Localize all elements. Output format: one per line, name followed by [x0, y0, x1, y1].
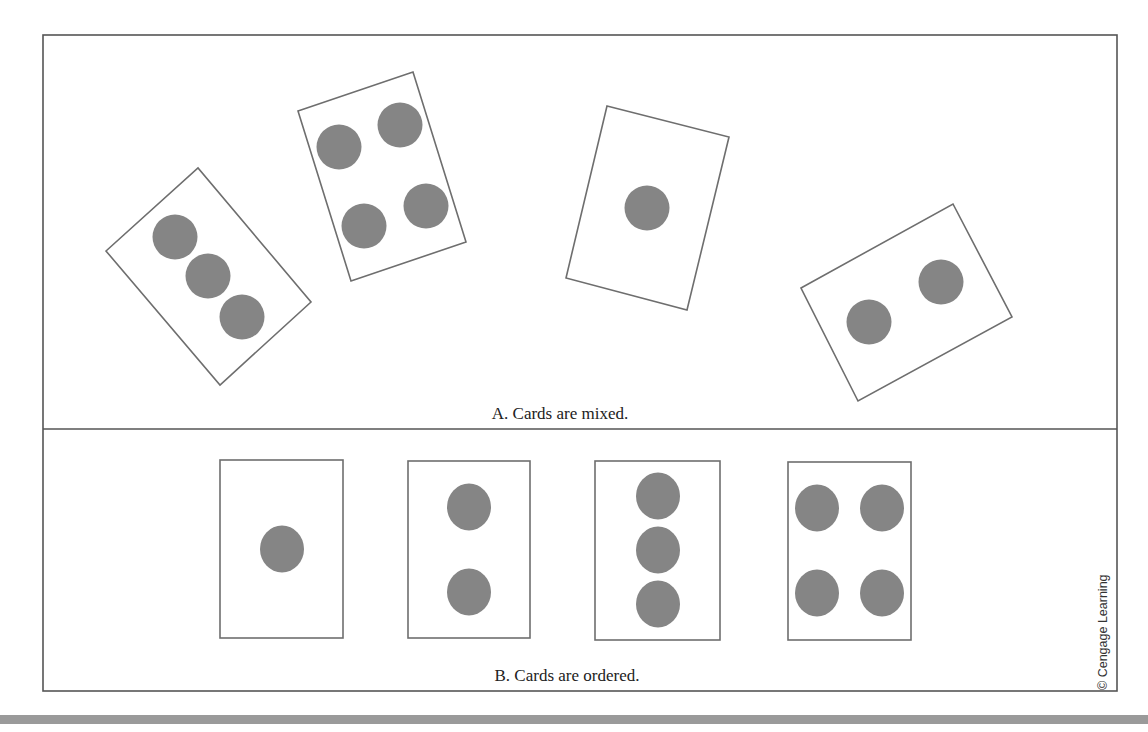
dot — [795, 485, 839, 532]
dot — [342, 204, 387, 249]
dot — [447, 569, 491, 616]
mixed-card-4-dots — [298, 72, 466, 281]
dot — [625, 186, 670, 231]
dot — [636, 527, 680, 574]
dot — [220, 295, 265, 340]
dot — [186, 254, 231, 299]
dot — [153, 215, 198, 260]
panel-b-caption: B. Cards are ordered. — [495, 666, 640, 685]
panel-b-ordered-cards — [220, 460, 911, 640]
mixed-card-3-dots — [106, 168, 311, 385]
bottom-rule — [0, 715, 1148, 724]
dot — [795, 570, 839, 617]
dot — [317, 125, 362, 170]
dot — [636, 581, 680, 628]
dot — [260, 526, 304, 573]
mixed-card-1-dots — [566, 106, 729, 310]
panel-a-caption: A. Cards are mixed. — [492, 404, 628, 423]
dot — [860, 570, 904, 617]
ordered-card-4-dots — [788, 462, 911, 640]
dot — [447, 484, 491, 531]
panel-a-mixed-cards — [106, 72, 1012, 401]
mixed-card-2-dots — [801, 204, 1012, 401]
dot — [404, 184, 449, 229]
dot — [636, 473, 680, 520]
ordered-card-3-dots — [595, 461, 720, 640]
dot — [919, 260, 964, 305]
ordered-card-2-dots — [408, 461, 530, 638]
dot — [860, 485, 904, 532]
dot — [847, 300, 892, 345]
copyright-credit: © Cengage Learning — [1096, 574, 1110, 690]
card-outline — [298, 72, 466, 281]
card-outline — [801, 204, 1012, 401]
figure-canvas: A. Cards are mixed. B. Cards are ordered… — [0, 0, 1148, 732]
ordered-card-1-dots — [220, 460, 343, 638]
dot — [378, 103, 423, 148]
